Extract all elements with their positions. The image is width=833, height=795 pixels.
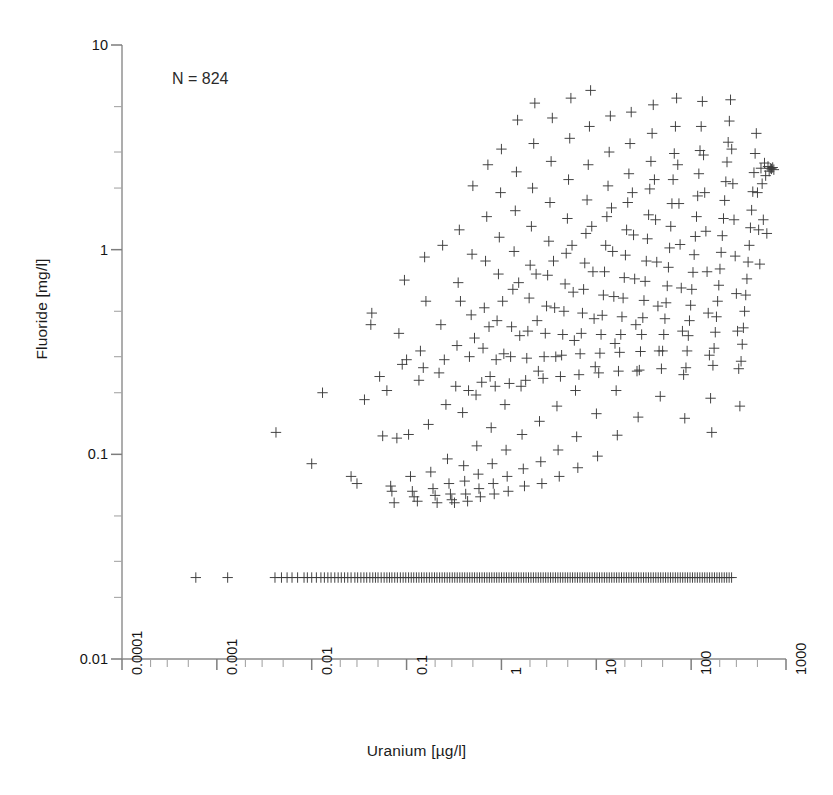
data-point [549, 303, 559, 313]
data-point [486, 422, 496, 432]
data-point [697, 96, 707, 106]
data-point [484, 322, 494, 332]
data-point [752, 187, 762, 197]
data-point [725, 95, 735, 105]
data-point [603, 181, 613, 191]
data-point [512, 115, 522, 125]
data-point [689, 249, 699, 259]
data-point [515, 330, 525, 340]
data-point [530, 98, 540, 108]
data-point [609, 291, 619, 301]
x-tick-label: 0.01 [319, 647, 335, 675]
data-point [581, 228, 591, 238]
sample-size-annotation: N = 824 [172, 70, 228, 88]
data-point [736, 356, 746, 366]
data-point [620, 250, 630, 260]
data-point [601, 240, 611, 250]
data-point [750, 148, 760, 158]
data-point [403, 429, 413, 439]
data-point [533, 366, 543, 376]
x-tick-label: 10 [603, 659, 619, 675]
data-point [544, 236, 554, 246]
data-point [464, 351, 474, 361]
data-point [495, 187, 505, 197]
data-point [307, 458, 317, 468]
data-point [659, 329, 669, 339]
data-point [490, 381, 500, 391]
data-point [580, 258, 590, 268]
data-point [479, 303, 489, 313]
data-point [694, 169, 704, 179]
x-axis-title: Uranium [µg/l] [0, 742, 833, 760]
data-point [587, 221, 597, 231]
data-point [505, 351, 515, 361]
data-point [612, 430, 622, 440]
data-point [602, 211, 612, 221]
data-point [607, 246, 617, 256]
x-tick-label: 0.001 [224, 639, 240, 675]
data-point [646, 156, 656, 166]
data-point [635, 346, 645, 356]
data-point [730, 251, 740, 261]
data-point [636, 329, 646, 339]
data-point [647, 128, 657, 138]
data-point [506, 322, 516, 332]
data-point [471, 390, 481, 400]
data-point [434, 368, 444, 378]
data-point [522, 353, 532, 363]
data-point [634, 365, 644, 375]
data-point [382, 385, 392, 395]
data-point [469, 333, 479, 343]
x-tick-marks [122, 659, 786, 670]
scatter-plot-figure: Fluoride [mg/l] Uranium [µg/l] N = 824 0… [0, 0, 833, 795]
data-point [722, 157, 732, 167]
data-point [477, 377, 487, 387]
data-point [531, 269, 541, 279]
data-point [734, 364, 744, 374]
data-point [595, 348, 605, 358]
data-point [452, 340, 462, 350]
data-point [499, 349, 509, 359]
data-point [367, 308, 377, 318]
data-point [681, 363, 691, 373]
y-tick-marks [111, 45, 122, 659]
data-point [619, 272, 629, 282]
data-point [405, 471, 415, 481]
data-point [629, 274, 639, 284]
data-point [516, 381, 526, 391]
data-point [346, 471, 356, 481]
data-point [458, 460, 468, 470]
data-point [742, 274, 752, 284]
data-point [374, 371, 384, 381]
data-point [558, 329, 568, 339]
data-point [517, 429, 527, 439]
data-point [737, 339, 747, 349]
data-point [741, 290, 751, 300]
data-point [222, 572, 232, 582]
data-point [705, 393, 715, 403]
data-point [604, 147, 614, 157]
data-point [491, 354, 501, 364]
data-point [401, 354, 411, 364]
data-point [704, 350, 714, 360]
data-point [678, 369, 688, 379]
data-point [511, 167, 521, 177]
data-point [442, 454, 452, 464]
data-point [613, 366, 623, 376]
data-point [569, 335, 579, 345]
data-point [509, 246, 519, 256]
data-point [660, 313, 670, 323]
x-tick-label: 1 [508, 667, 524, 675]
data-point [663, 262, 673, 272]
data-point [503, 486, 513, 496]
data-point [492, 315, 502, 325]
data-point [494, 232, 504, 242]
data-point [539, 351, 549, 361]
data-point [617, 312, 627, 322]
data-point [729, 215, 739, 225]
data-point [715, 264, 725, 274]
data-points-layer [191, 85, 779, 583]
data-point [468, 181, 478, 191]
data-point [632, 366, 642, 376]
data-point [508, 284, 518, 294]
